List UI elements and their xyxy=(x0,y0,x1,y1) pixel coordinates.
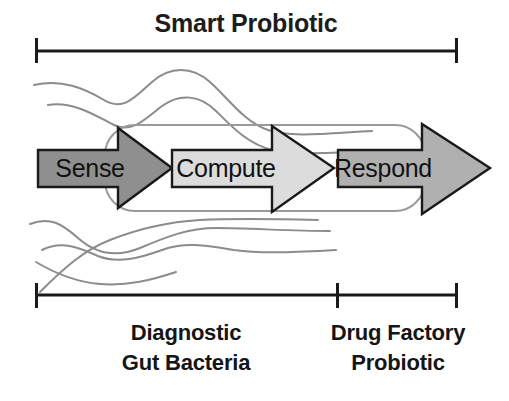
bottom-label-drug-factory-probiotic: Drug Factory Probiotic xyxy=(331,320,466,375)
compute-arrow-label: Compute xyxy=(176,154,275,182)
flow-step-compute[interactable]: Compute xyxy=(172,126,334,212)
sense-arrow-label: Sense xyxy=(55,154,124,182)
smart-probiotic-diagram: Smart Probiotic Sense Compute Respond xyxy=(0,0,509,401)
drug-factory-label-line2: Probiotic xyxy=(351,350,445,375)
diagnostic-label-line1: Diagnostic xyxy=(131,320,241,345)
strand-lower-4 xyxy=(36,262,176,284)
flow-step-sense[interactable]: Sense xyxy=(38,128,172,208)
diagnostic-label-line2: Gut Bacteria xyxy=(122,350,251,375)
bottom-bracket xyxy=(36,283,457,308)
top-bracket xyxy=(36,38,457,63)
flow-step-respond[interactable]: Respond xyxy=(334,124,490,214)
bottom-label-diagnostic-gut-bacteria: Diagnostic Gut Bacteria xyxy=(122,320,251,375)
respond-arrow-label: Respond xyxy=(334,154,432,182)
drug-factory-label-line1: Drug Factory xyxy=(331,320,466,345)
page-title: Smart Probiotic xyxy=(154,9,337,37)
strand-lower-1 xyxy=(30,221,330,254)
